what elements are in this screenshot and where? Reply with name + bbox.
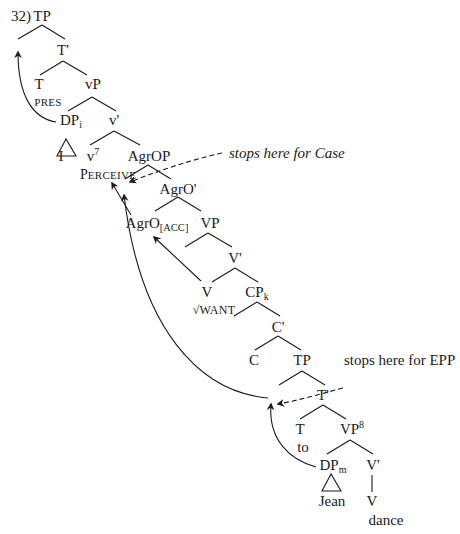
node-dp-m: DPm xyxy=(320,458,347,473)
node-tp-root: TP xyxy=(33,9,51,24)
branch-tp-tbar xyxy=(42,25,65,39)
node-v-big: V xyxy=(202,285,213,300)
node-pres: PRES xyxy=(34,97,62,108)
branch-tp-spec xyxy=(18,25,42,39)
node-perceive: PERCEIVE xyxy=(80,167,136,182)
node-v-bar-little: v' xyxy=(109,113,119,128)
node-v-bar-big: V' xyxy=(228,251,242,266)
node-i-pronoun: I xyxy=(59,149,64,164)
triangle-dp-m xyxy=(322,474,341,491)
annotation-epp: stops here for EPP xyxy=(344,353,455,368)
node-c-bar: C' xyxy=(272,320,285,335)
node-t: T xyxy=(34,77,43,92)
tree-lines xyxy=(0,0,460,534)
node-agro-bar: AgrO' xyxy=(160,182,197,197)
node-agro: AgrO[ACC] xyxy=(126,216,189,231)
node-v-bar-embedded: V' xyxy=(366,458,380,473)
node-vp-big: VP xyxy=(200,216,219,231)
node-t-bar: T' xyxy=(57,43,69,58)
node-vp-embedded: VP8 xyxy=(340,422,364,437)
node-to: to xyxy=(297,440,309,455)
node-c: C xyxy=(249,353,259,368)
example-number: 32) xyxy=(11,9,31,24)
dashed-arrow-epp xyxy=(278,388,343,404)
arrow-v-to-agro xyxy=(154,237,201,281)
node-vp-little: vP xyxy=(85,77,101,92)
node-dance: dance xyxy=(369,513,404,528)
node-tp-embedded: TP xyxy=(293,353,311,368)
node-v-embedded: V xyxy=(367,494,378,509)
arrow-agro-to-perceive xyxy=(112,183,131,215)
node-cp: CPk xyxy=(245,285,268,300)
syntax-tree-diagram: 32) TP T' T vP PRES DPi v' I v7 AgrOP PE… xyxy=(0,0,460,534)
node-v-little: v7 xyxy=(87,149,100,164)
node-want: √WANT xyxy=(193,304,236,316)
node-dp-i: DPi xyxy=(60,113,82,128)
node-jean: Jean xyxy=(319,494,346,509)
node-t-embedded: T xyxy=(295,422,304,437)
annotation-case: stops here for Case xyxy=(229,146,345,161)
node-t-bar-embedded: T' xyxy=(317,388,329,403)
node-agrop: AgrOP xyxy=(128,149,171,164)
